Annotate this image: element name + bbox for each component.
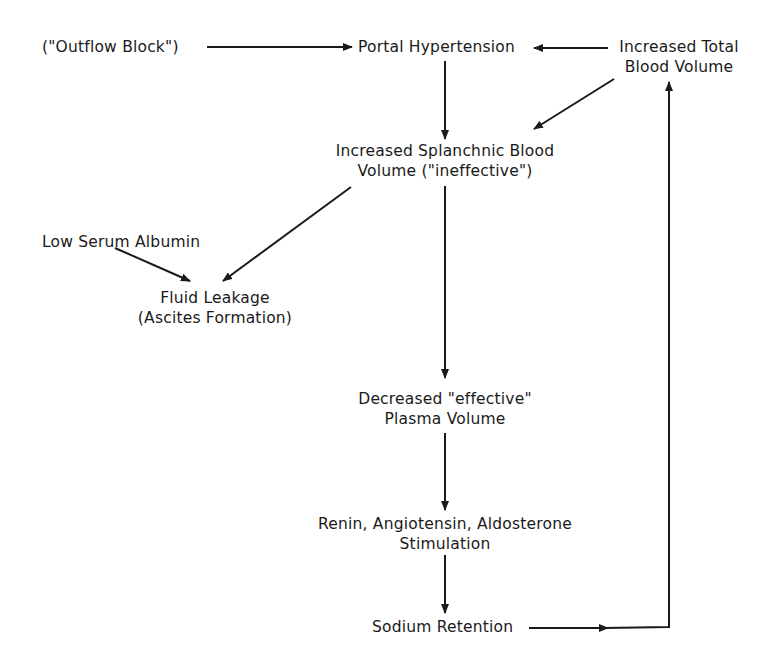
node-label-line-1: Increased Splanchnic Blood — [315, 141, 575, 161]
arrows-layer — [0, 0, 776, 670]
node-label-line-2: Plasma Volume — [330, 409, 560, 429]
node-label-line-2: Blood Volume — [612, 57, 746, 77]
node-renin-angiotensin-aldosterone: Renin, Angiotensin, Aldosterone Stimulat… — [295, 514, 595, 554]
node-label-line-1: Fluid Leakage — [125, 288, 305, 308]
node-label-line-2: (Ascites Formation) — [125, 308, 305, 328]
node-label-line-2: Stimulation — [295, 534, 595, 554]
node-sodium-retention: Sodium Retention — [372, 617, 513, 637]
node-decreased-effective-plasma-volume: Decreased "effective" Plasma Volume — [330, 389, 560, 429]
arrow-totalvolume-to-splanchnic — [534, 79, 614, 129]
node-label: Low Serum Albumin — [42, 232, 200, 252]
node-portal-hypertension: Portal Hypertension — [358, 37, 515, 57]
node-increased-total-blood-volume: Increased Total Blood Volume — [612, 37, 746, 77]
node-low-serum-albumin: Low Serum Albumin — [42, 232, 200, 252]
node-label-line-2: Volume ("ineffective") — [315, 161, 575, 181]
node-label: ("Outflow Block") — [42, 37, 179, 57]
node-label-line-1: Renin, Angiotensin, Aldosterone — [295, 514, 595, 534]
node-label-line-1: Increased Total — [612, 37, 746, 57]
node-label: Sodium Retention — [372, 617, 513, 637]
arrow-sodium-to-totalvolume — [604, 82, 669, 628]
arrow-splanchnic-to-fluid — [223, 187, 351, 281]
arrow-albumin-to-fluid — [115, 248, 190, 281]
node-outflow-block: ("Outflow Block") — [42, 37, 179, 57]
node-increased-splanchnic-blood-volume: Increased Splanchnic Blood Volume ("inef… — [315, 141, 575, 181]
node-label-line-1: Decreased "effective" — [330, 389, 560, 409]
node-fluid-leakage: Fluid Leakage (Ascites Formation) — [125, 288, 305, 328]
node-label: Portal Hypertension — [358, 37, 515, 57]
